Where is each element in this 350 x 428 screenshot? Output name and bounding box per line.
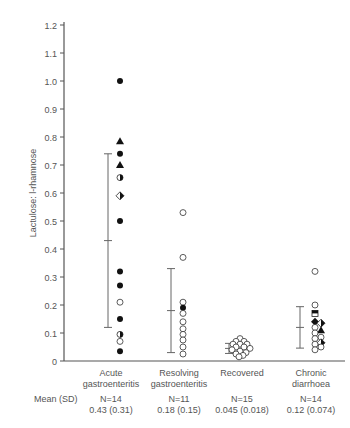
y-tick-label: 1.2: [44, 21, 57, 31]
open-circle-marker: [180, 344, 186, 350]
dot-plot-chart: 00.10.20.30.40.50.60.70.80.91.01.11.2Lac…: [0, 0, 350, 428]
category-label: Acute: [99, 368, 122, 378]
filled-circle-marker: [117, 282, 123, 288]
category-label: Resolving: [159, 368, 199, 378]
data-points: [116, 78, 325, 360]
open-circle-marker: [180, 331, 186, 337]
filled-triangle-marker: [116, 161, 124, 168]
filled-circle-marker: [117, 268, 123, 274]
open-circle-marker: [318, 344, 324, 350]
y-tick-label: 0.1: [44, 329, 57, 339]
y-tick-label: 0.9: [44, 105, 57, 115]
open-circle-marker: [180, 210, 186, 216]
filled-circle-marker: [117, 151, 123, 157]
y-axis-title: Lactulose: l-rhamnose: [28, 149, 38, 238]
open-circle-marker: [312, 268, 318, 274]
y-tick-label: 0.6: [44, 189, 57, 199]
open-circle-marker: [180, 299, 186, 305]
filled-circle-marker: [117, 348, 123, 354]
open-circle-marker: [312, 330, 318, 336]
open-circle-marker: [180, 326, 186, 332]
y-tick-label: 0.5: [44, 217, 57, 227]
category-label: Recovered: [220, 368, 264, 378]
open-circle-marker: [180, 254, 186, 260]
open-circle-marker: [312, 347, 318, 353]
n-count: N=15: [231, 394, 253, 404]
open-circle-marker: [117, 299, 123, 305]
category-label: Chronic: [295, 368, 327, 378]
y-tick-label: 1.1: [44, 49, 57, 59]
filled-circle-marker: [180, 305, 186, 311]
open-circle-marker: [180, 351, 186, 357]
y-tick-label: 0.2: [44, 301, 57, 311]
chart-canvas: 00.10.20.30.40.50.60.70.80.91.01.11.2Lac…: [0, 0, 350, 428]
mean-sd-value: 0.18 (0.15): [157, 405, 201, 415]
category-label: diarrhoea: [292, 379, 330, 389]
error-bars: [104, 154, 304, 354]
category-label: gastroenteritis: [151, 379, 208, 389]
y-tick-label: 0.3: [44, 273, 57, 283]
y-tick-label: 0.7: [44, 161, 57, 171]
open-circle-marker: [180, 310, 186, 316]
n-count: N=11: [168, 394, 189, 404]
open-circle-marker: [312, 302, 318, 308]
n-count: N=14: [300, 394, 322, 404]
half-diamond-fill: [120, 192, 124, 200]
n-count: N=14: [100, 394, 122, 404]
half-square-fill: [312, 310, 318, 313]
filled-circle-marker: [117, 78, 123, 84]
category-labels: AcutegastroenteritisN=140.43 (0.31)Resol…: [34, 368, 335, 415]
half-diamond-fill: [321, 319, 325, 327]
axes: 00.10.20.30.40.50.60.70.80.91.01.11.2Lac…: [28, 21, 345, 367]
category-label: gastroenteritis: [83, 379, 140, 389]
open-circle-marker: [312, 324, 318, 330]
mean-sd-label: Mean (SD): [34, 394, 78, 404]
mean-sd-value: 0.045 (0.018): [215, 405, 269, 415]
y-tick-label: 1.0: [44, 77, 57, 87]
open-circle-marker: [180, 319, 186, 325]
open-circle-marker: [312, 341, 318, 347]
open-circle-marker: [236, 354, 242, 360]
open-circle-marker: [312, 336, 318, 342]
y-tick-label: 0: [52, 357, 57, 367]
y-tick-label: 0.4: [44, 245, 57, 255]
filled-circle-marker: [117, 218, 123, 224]
filled-circle-marker: [117, 316, 123, 322]
y-tick-label: 0.8: [44, 133, 57, 143]
open-circle-marker: [117, 338, 123, 344]
open-circle-marker: [180, 337, 186, 343]
mean-sd-value: 0.12 (0.074): [287, 405, 336, 415]
filled-triangle-marker: [116, 137, 124, 144]
mean-sd-value: 0.43 (0.31): [89, 405, 133, 415]
